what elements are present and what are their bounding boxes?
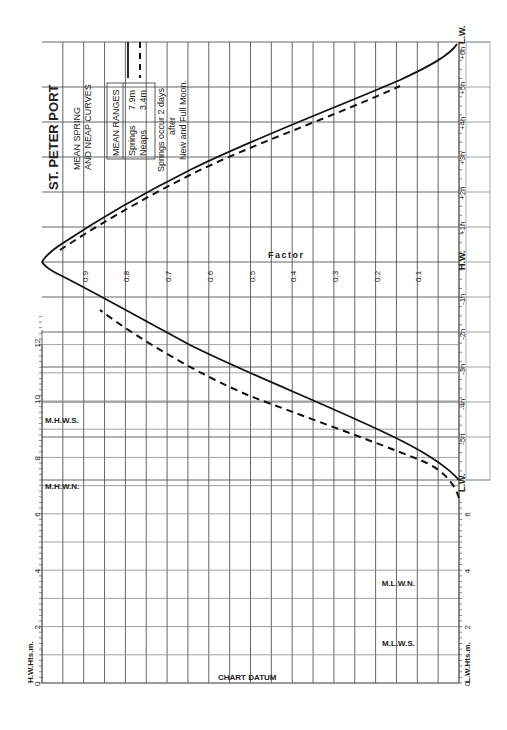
axis-tick-label: 0.3 <box>331 270 340 282</box>
axis-tick-label: 0.1 <box>414 270 423 282</box>
axis-tick-label: 2 <box>463 625 472 630</box>
axis-tick-label: +1h <box>458 221 467 235</box>
axis-tick-label: L.W. <box>457 474 467 493</box>
factor-label: Factor <box>268 250 305 260</box>
neaps-value: 3.4m <box>138 90 148 110</box>
axis-tick-label: 2 <box>33 625 42 630</box>
axis-tick-label: -3h <box>458 363 467 375</box>
springs-label: Springs <box>127 125 137 156</box>
axis-tick-label: +5h <box>458 81 467 95</box>
svg-text:after: after <box>167 117 177 135</box>
tidal-curve-diagram: ST. PETER PORT MEAN SPRING AND NEAP CURV… <box>0 0 507 730</box>
svg-text:New and Full Moon.: New and Full Moon. <box>178 80 188 160</box>
axis-tick-label: H.W. <box>457 251 467 271</box>
axis-tick-label: 0.9 <box>81 270 90 282</box>
axis-tick-label: L.W. <box>457 26 467 45</box>
mean-ranges-box: MEAN RANGES Springs 7.9m Neaps 3.4m <box>107 42 155 159</box>
axis-tick-label: 0 <box>33 681 42 686</box>
svg-text:Springs occur 2 days: Springs occur 2 days <box>156 87 166 172</box>
axis-tick-label: 4 <box>33 568 42 573</box>
title-block: ST. PETER PORT MEAN SPRING AND NEAP CURV… <box>46 84 93 190</box>
axis-tick-label: +6h <box>458 46 467 60</box>
axis-tick-label: 0 <box>463 681 472 686</box>
axis-tick-label: -4h <box>458 398 467 410</box>
axis-tick-label: +3h <box>458 151 467 165</box>
springs-note: Springs occur 2 days after New and Full … <box>156 80 188 172</box>
axis-tick-label: 4 <box>463 568 472 573</box>
axis-tick-label: +2h <box>458 186 467 200</box>
axis-tick-label: 0.7 <box>164 270 173 282</box>
ranges-header: MEAN RANGES <box>111 89 121 156</box>
axis-tick-label: 0.4 <box>289 270 298 282</box>
subtitle-line1: MEAN SPRING <box>72 107 82 170</box>
mhws-label: M.H.W.S. <box>45 416 79 425</box>
axis-tick-label: +4h <box>458 116 467 130</box>
chart-datum-label: CHART DATUM <box>218 673 277 682</box>
axis-tick-label: 6 <box>463 512 472 517</box>
time-box-column <box>466 42 490 480</box>
springs-value: 7.9m <box>127 90 137 110</box>
neaps-label: Neaps <box>138 129 148 156</box>
axis-tick-label: 12 <box>33 338 42 347</box>
axis-tick-label: 0.2 <box>373 270 382 282</box>
title: ST. PETER PORT <box>46 84 61 190</box>
mlws-label: M.L.W.S. <box>382 639 415 648</box>
axis-tick-label: 0.8 <box>122 270 131 282</box>
mhwn-label: M.H.W.N. <box>45 482 79 491</box>
axis-tick-label: 10 <box>33 395 42 404</box>
subtitle-line2: AND NEAP CURVES <box>83 84 93 170</box>
axis-tick-label: 8 <box>33 455 42 460</box>
axis-tick-label: -1h <box>458 293 467 305</box>
axis-tick-label: 0.6 <box>206 270 215 282</box>
hw-axis-label: H.W.Hts.m. <box>26 641 35 683</box>
axis-tick-label: 0.5 <box>248 270 257 282</box>
axis-tick-label: -5h <box>458 433 467 445</box>
axis-tick-label: 6 <box>33 512 42 517</box>
mlwn-label: M.L.W.N. <box>382 579 415 588</box>
lw-axis-label: L.W.Hts.m. <box>463 642 472 683</box>
axis-tick-label: -2h <box>458 328 467 340</box>
